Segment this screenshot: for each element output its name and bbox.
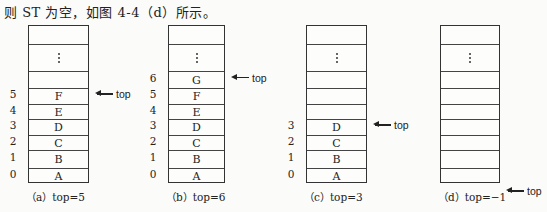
stack-cell: D [307,119,366,135]
stack-a: FEDCBA [28,25,89,183]
index-label: 2 [146,135,160,147]
index-label: 6 [146,72,160,84]
ellipsis-cell [29,44,88,71]
stack-cell: C [307,135,366,150]
stack-cell: D [169,119,224,135]
stack-cell: C [169,135,224,150]
caption-text: 则 ST 为空，如图 4-4（d）所示。 [4,2,216,21]
index-label: 1 [284,151,298,163]
pointer-label: top [116,88,131,100]
index-label: 2 [284,135,298,147]
subcaption-c: （c）top=3 [304,189,363,204]
stack-cell: E [29,104,88,119]
index-label: 0 [6,168,20,180]
stack-cell [29,71,88,88]
stack-cell: F [169,88,224,104]
ellipsis-cell [307,44,366,71]
index-label: 4 [6,104,20,116]
top-pointer: top [97,88,131,100]
arrow-left-icon [97,93,113,94]
stack-cell: G [169,71,224,88]
arrow-left-icon [233,77,249,78]
stack-cell [441,71,499,88]
subcaption-a: （a）top=5 [26,189,85,204]
arrow-left-icon [508,190,524,191]
index-label: 5 [6,88,20,100]
index-label: 1 [6,151,20,163]
stack-cell: C [29,135,88,150]
stack-cell [441,119,499,135]
vertical-ellipsis-icon [336,53,338,63]
index-label: 1 [146,151,160,163]
stack-cell: B [307,150,366,168]
ellipsis-cell [441,44,499,71]
top-pointer: top [508,185,542,197]
stack-cell [441,135,499,150]
index-label: 3 [146,119,160,131]
stack-b: GFEDCBA [168,25,225,183]
pointer-label: top [252,72,267,84]
stack-cell: E [169,104,224,119]
stack-cell: F [29,88,88,104]
index-label: 0 [284,168,298,180]
top-pointer: top [375,119,409,131]
stack-cell: A [29,168,88,184]
index-label: 3 [284,119,298,131]
stack-cell: A [169,168,224,184]
stack-d [440,25,500,183]
subcaption-b: （b）top=6 [166,189,225,204]
pointer-label: top [394,119,409,131]
stack-cell [441,168,499,184]
vertical-ellipsis-icon [58,53,60,63]
stack-c: DCBA [306,25,367,183]
stack-cell [169,26,224,44]
stack-cell [441,88,499,104]
stack-cell [441,104,499,119]
vertical-ellipsis-icon [469,53,471,63]
stack-cell [307,71,366,88]
stack-cell [307,104,366,119]
index-label: 0 [146,168,160,180]
stack-cell [441,150,499,168]
index-label: 5 [146,88,160,100]
stack-cell: B [29,150,88,168]
pointer-label: top [527,185,542,197]
stack-cell [307,26,366,44]
stack-cell: A [307,168,366,184]
stack-cell: D [29,119,88,135]
stack-cell [307,88,366,104]
stack-cell [29,26,88,44]
arrow-left-icon [375,124,391,125]
stack-cell [441,26,499,44]
index-label: 3 [6,119,20,131]
stack-cell: B [169,150,224,168]
vertical-ellipsis-icon [196,53,198,63]
subcaption-d: （d）top=−1 [438,189,506,204]
index-label: 4 [146,104,160,116]
index-label: 2 [6,135,20,147]
ellipsis-cell [169,44,224,71]
top-pointer: top [233,72,267,84]
